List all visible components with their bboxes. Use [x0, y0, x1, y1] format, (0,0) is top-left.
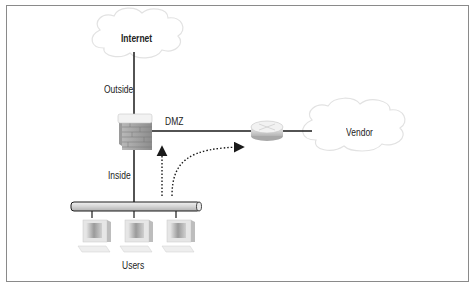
users-label: Users: [122, 260, 144, 271]
inside-label: Inside: [108, 170, 131, 181]
network-diagram: [0, 0, 475, 287]
workstation-icon: [162, 220, 195, 252]
firewall-icon: [118, 114, 152, 150]
router-icon: [251, 121, 283, 141]
vendor-cloud-icon: [303, 98, 405, 151]
vendor-label: Vendor: [346, 127, 373, 138]
workstation-icon: [120, 220, 153, 252]
lan-bus-icon: [71, 202, 202, 211]
dmz-label: DMZ: [165, 116, 183, 127]
internet-label: Internet: [121, 33, 152, 44]
flow-to-router-arrow: [172, 147, 242, 196]
outside-label: Outside: [104, 84, 133, 95]
workstation-icon: [78, 220, 111, 252]
